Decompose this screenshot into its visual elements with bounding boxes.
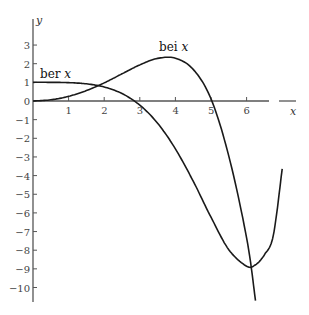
y-tick-label: 2	[24, 59, 30, 70]
y-tick-label: −3	[15, 152, 30, 163]
bei-label: bei x	[159, 40, 188, 54]
curves	[33, 57, 282, 300]
x-ticks: 123456	[66, 97, 250, 116]
y-tick-label: −5	[15, 189, 30, 200]
chart: y x 123456 3210−1−2−3−4−5−6−7−8−9−10 ber…	[0, 0, 309, 315]
y-tick-label: −6	[15, 208, 30, 219]
y-tick-label: 3	[24, 40, 30, 51]
y-tick-label: −7	[15, 227, 30, 238]
y-axis-label: y	[35, 14, 43, 27]
x-tick-label: 2	[101, 105, 107, 116]
y-tick-label: −9	[15, 264, 30, 275]
y-tick-label: 1	[24, 77, 30, 88]
y-tick-label: 0	[24, 96, 30, 107]
x-tick-label: 6	[244, 105, 250, 116]
y-tick-label: −1	[15, 115, 30, 126]
y-tick-label: −4	[15, 171, 30, 182]
y-tick-label: −10	[9, 283, 30, 294]
bei-curve	[33, 57, 256, 300]
x-tick-label: 4	[172, 105, 178, 116]
x-axis-label: x	[290, 105, 297, 118]
y-tick-label: −2	[15, 133, 30, 144]
y-tick-label: −8	[15, 245, 30, 256]
x-tick-label: 1	[66, 105, 72, 116]
ber-label: ber x	[40, 67, 71, 81]
